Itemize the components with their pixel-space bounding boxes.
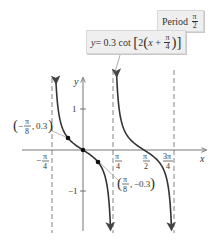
- svg-text:4: 4: [166, 162, 170, 171]
- period-fraction: π 2: [192, 13, 198, 30]
- period-callout: Period π 2: [157, 10, 204, 32]
- period-label: Period: [162, 16, 188, 27]
- svg-text:8: 8: [123, 185, 127, 194]
- svg-text:8: 8: [25, 127, 29, 136]
- svg-text:−0.3: −0.3: [134, 179, 151, 189]
- svg-text:3π: 3π: [163, 152, 171, 161]
- svg-text:−: −: [18, 121, 23, 131]
- svg-text:,: ,: [32, 121, 34, 131]
- equation-callout: y = 0.3 cot [ 2 ( x + π 4 )]: [86, 30, 186, 54]
- svg-text:−: −: [36, 155, 41, 165]
- y-tick-label-1: 1: [72, 104, 77, 114]
- x-tick-label-pi-4: π 4: [115, 152, 122, 171]
- svg-text:): ): [48, 117, 53, 134]
- x-tick-label-neg-pi-4: − π 4: [36, 152, 49, 171]
- svg-text:π: π: [123, 175, 127, 184]
- svg-text:0.3: 0.3: [36, 121, 48, 131]
- svg-text:π: π: [115, 152, 119, 161]
- x-axis-label: x: [199, 153, 205, 164]
- y-axis-label: y: [73, 76, 79, 87]
- svg-text:2: 2: [144, 162, 148, 171]
- point-neg-pi-8: [66, 136, 71, 141]
- svg-text:,: ,: [130, 179, 132, 189]
- point-origin: [81, 148, 86, 153]
- equation-rhs: = 0.3 cot: [95, 37, 130, 48]
- y-tick-label-neg-1: −1: [68, 186, 78, 196]
- x-tick-label-3pi-4: 3π 4: [163, 152, 173, 171]
- svg-text:π: π: [143, 152, 147, 161]
- equation-fraction: π 4: [164, 34, 170, 51]
- svg-text:π: π: [25, 117, 29, 126]
- svg-text:): ): [150, 175, 155, 192]
- svg-text:π: π: [43, 152, 47, 161]
- svg-text:4: 4: [43, 162, 47, 171]
- svg-text:(: (: [117, 175, 122, 192]
- point-pi-8: [96, 160, 101, 165]
- svg-text:4: 4: [116, 162, 120, 171]
- point-label-neg-pi-8: ( − π 8 , 0.3 ): [13, 117, 53, 136]
- x-tick-label-pi-2: π 2: [143, 152, 150, 171]
- point-label-pi-8: ( π 8 , −0.3 ): [117, 175, 155, 194]
